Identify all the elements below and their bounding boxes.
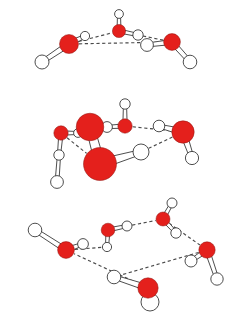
oxygen-atom [101,223,115,237]
hydrogen-bond [67,138,87,154]
oxygen-atom [76,113,104,141]
water-trimer-atoms [35,10,197,69]
oxygen-atom [60,35,79,54]
hydrogen-atom [54,150,64,160]
oxygen-atom [199,242,215,258]
water-pentamer [51,99,199,189]
hydrogen-atom [107,270,121,284]
hydrogen-atom [35,55,49,69]
oxygen-atom [112,24,125,37]
hydrogen-atom [115,10,124,19]
hydrogen-atom [141,39,154,52]
oxygen-atom [172,121,194,143]
hydrogen-atom [28,223,42,237]
hydrogen-atom [51,176,64,189]
hydrogen-atom [133,30,143,40]
water-trimer [35,10,197,69]
water-pentamer-covalent-bonds [55,104,194,182]
hydrogen-atom [80,31,89,40]
water-hexamer-atoms [28,198,223,311]
water-hexamer-hydrogen-bonds [74,220,200,283]
hydrogen-atom [171,228,181,238]
hydrogen-atom [133,144,149,160]
oxygen-atom [156,212,170,226]
hydrogen-atom [153,120,165,132]
oxygen-atom [164,34,181,51]
hydrogen-bond [149,137,173,148]
hydrogen-atom [102,242,111,251]
oxygen-atom [138,278,158,298]
hydrogen-atom [183,55,197,69]
water-hexamer [28,198,223,311]
hydrogen-atom [185,255,197,267]
hydrogen-atom [185,151,198,164]
hydrogen-atom [122,221,132,231]
hydrogen-atom [211,273,223,285]
oxygen-atom [58,242,75,259]
oxygen-atom [118,119,132,133]
hydrogen-atom [120,99,130,109]
hydrogen-atom [167,198,177,208]
water-cluster-figure [0,0,233,313]
oxygen-atom [54,126,68,140]
molecular-structure-canvas [0,0,233,313]
oxygen-atom [84,148,117,181]
hydrogen-atom [78,239,89,250]
